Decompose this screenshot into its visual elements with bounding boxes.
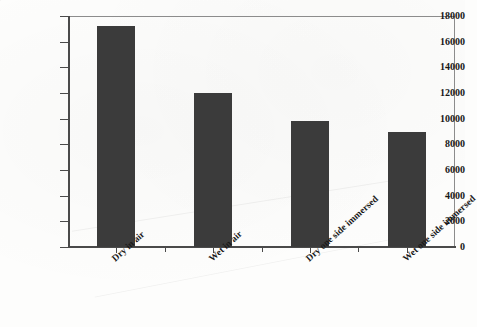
x-tick-boundary	[165, 248, 166, 252]
y-tick-mark	[60, 16, 68, 17]
x-tick-boundary	[262, 248, 263, 252]
y-tick-label: 16000	[421, 36, 465, 47]
bar	[194, 93, 232, 247]
y-tick-mark	[60, 247, 68, 248]
y-tick-mark	[60, 67, 68, 68]
y-tick-label: 12000	[421, 87, 465, 98]
y-axis-line	[68, 16, 70, 248]
scan-streak	[95, 239, 390, 297]
y-tick-mark	[60, 144, 68, 145]
y-tick-label: 4000	[421, 190, 465, 201]
x-tick-boundary	[358, 248, 359, 252]
y-tick-mark	[60, 170, 68, 171]
y-tick-mark	[60, 42, 68, 43]
y-tick-mark	[60, 221, 68, 222]
bar	[97, 26, 135, 247]
y-tick-label: 8000	[421, 138, 465, 149]
y-tick-mark	[60, 119, 68, 120]
y-tick-label: 14000	[421, 61, 465, 72]
y-tick-label: 6000	[421, 164, 465, 175]
y-tick-label: 18000	[421, 10, 465, 21]
y-tick-label: 10000	[421, 113, 465, 124]
bar	[388, 132, 426, 248]
y-tick-mark	[60, 93, 68, 94]
y-tick-mark	[60, 196, 68, 197]
bar	[291, 121, 329, 247]
